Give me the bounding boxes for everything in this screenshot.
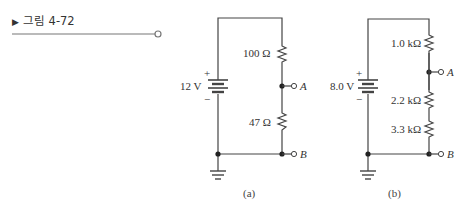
resistor-a2-label: 47 Ω (249, 116, 271, 128)
terminal-a-a-label: A (299, 80, 307, 92)
terminal-a-a-icon (291, 83, 296, 88)
resistor-b1-label: 1.0 kΩ (391, 37, 421, 49)
battery-a-minus: − (204, 93, 210, 105)
resistor-b1-icon (425, 33, 433, 53)
ground-b-icon (360, 171, 376, 179)
circuit-diagrams: + − 12 V 100 Ω A 47 Ω B (a) (0, 0, 470, 209)
resistor-b3-icon (425, 119, 433, 139)
battery-a-icon (208, 80, 228, 92)
terminal-b-a-label: A (446, 66, 454, 78)
terminal-a-b-label: B (300, 148, 307, 160)
battery-a-plus: + (204, 67, 210, 79)
resistor-a2-icon (278, 111, 286, 133)
terminal-a-b-icon (291, 151, 296, 156)
resistor-b3-label: 3.3 kΩ (391, 123, 421, 135)
figure-underline (12, 31, 161, 37)
ground-a-icon (210, 171, 226, 179)
resistor-a1-icon (278, 44, 286, 64)
resistor-b2-icon (425, 90, 433, 110)
terminal-b-b-icon (438, 151, 443, 156)
circuit-b: + − 8.0 V 1.0 kΩ A 2.2 kΩ 3.3 kΩ B (b) (330, 19, 454, 200)
battery-b-value: 8.0 V (330, 80, 354, 92)
terminal-b-b-label: B (447, 148, 454, 160)
circuit-a: + − 12 V 100 Ω A 47 Ω B (a) (180, 18, 307, 200)
battery-b-icon (358, 80, 378, 92)
battery-b-plus: + (356, 67, 362, 79)
resistor-b2-label: 2.2 kΩ (391, 94, 421, 106)
battery-a-value: 12 V (180, 80, 202, 92)
resistor-a1-label: 100 Ω (243, 47, 270, 59)
battery-b-minus: − (356, 93, 362, 105)
caption-b: (b) (388, 187, 401, 200)
caption-a: (a) (243, 187, 256, 200)
terminal-b-a-icon (438, 69, 443, 74)
